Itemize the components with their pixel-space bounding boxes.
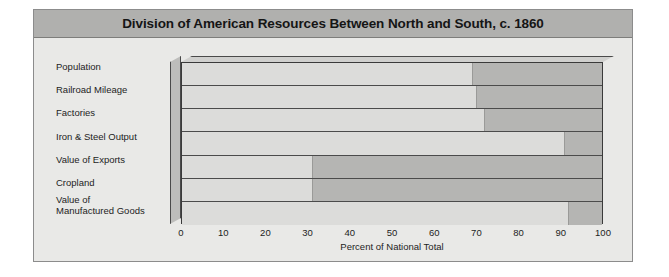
bar-row (182, 179, 602, 202)
bar-segment-north (182, 202, 568, 225)
chart-title-bar: Division of American Resources Between N… (34, 10, 632, 38)
bar-segment-north (182, 109, 484, 131)
bar-segment-north (182, 179, 312, 201)
x-axis: Percent of National Total 01020304050607… (181, 224, 603, 258)
x-tick-label-10: 10 (218, 227, 229, 238)
category-label: Cropland (56, 177, 186, 188)
x-tick-label-50: 50 (387, 227, 398, 238)
bar-segment-south (312, 179, 602, 201)
category-label: Railroad Mileage (56, 84, 186, 95)
chart-plot-area (181, 62, 603, 224)
category-label: Population (56, 61, 186, 72)
bar-segment-north (182, 86, 476, 108)
bar-segment-north (182, 63, 472, 85)
x-tick-label-40: 40 (345, 227, 356, 238)
bar-row (182, 132, 602, 155)
bar-segment-south (476, 86, 602, 108)
category-label: Factories (56, 107, 186, 118)
x-tick-label-90: 90 (556, 227, 567, 238)
x-tick-label-80: 80 (513, 227, 524, 238)
x-axis-title: Percent of National Total (181, 241, 603, 252)
category-label: Value of Manufactured Goods (56, 194, 186, 216)
bar-segment-south (312, 156, 602, 178)
bar-segment-north (182, 132, 564, 154)
bar-row (182, 156, 602, 179)
bar-row (182, 63, 602, 86)
x-tick-label-70: 70 (471, 227, 482, 238)
x-tick-label-20: 20 (260, 227, 271, 238)
page-title: Division of American Resources Between N… (122, 16, 544, 31)
bar-segment-south (484, 109, 602, 131)
category-axis-labels: PopulationRailroad MileageFactoriesIron … (56, 55, 186, 217)
bar-segment-south (564, 132, 602, 154)
chart-figure: Division of American Resources Between N… (33, 9, 633, 262)
chart-plot-body: PopulationRailroad MileageFactoriesIron … (34, 39, 632, 261)
bar-segment-south (568, 202, 602, 225)
bar-row (182, 109, 602, 132)
x-tick-label-30: 30 (302, 227, 313, 238)
bar-segment-north (182, 156, 312, 178)
x-tick-label-60: 60 (429, 227, 440, 238)
x-tick-label-100: 100 (595, 227, 611, 238)
chart-3d-side-face (170, 56, 181, 224)
category-label: Iron & Steel Output (56, 131, 186, 142)
x-tick-label-0: 0 (178, 227, 183, 238)
bar-row (182, 86, 602, 109)
bar-segment-south (472, 63, 602, 85)
category-label: Value of Exports (56, 154, 186, 165)
bar-row (182, 202, 602, 225)
